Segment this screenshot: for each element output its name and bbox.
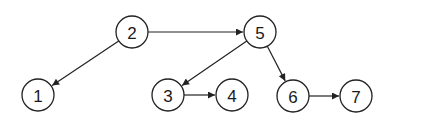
- node-label: 3: [163, 87, 172, 106]
- node-4: 4: [216, 79, 248, 111]
- node-label: 7: [351, 88, 360, 107]
- node-2: 2: [116, 16, 148, 48]
- edge-5-to-3: [182, 41, 247, 85]
- directed-graph: 1234567: [0, 0, 443, 135]
- node-label: 1: [33, 87, 42, 106]
- edge-2-to-1: [52, 41, 119, 86]
- node-1: 1: [22, 79, 54, 111]
- nodes-group: 1234567: [22, 16, 372, 112]
- node-label: 6: [288, 88, 297, 107]
- node-label: 5: [255, 24, 264, 43]
- node-5: 5: [244, 16, 276, 48]
- node-3: 3: [152, 79, 184, 111]
- node-label: 4: [227, 87, 236, 106]
- node-label: 2: [127, 24, 136, 43]
- node-6: 6: [277, 80, 309, 112]
- edge-5-to-6: [267, 46, 285, 81]
- node-7: 7: [340, 80, 372, 112]
